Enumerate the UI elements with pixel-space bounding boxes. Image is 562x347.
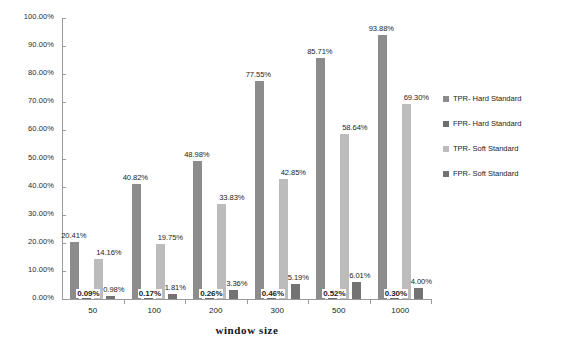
x-axis-separator-tick — [431, 299, 432, 304]
bar — [205, 298, 214, 299]
x-axis-separator-tick — [370, 299, 371, 304]
bar — [279, 179, 288, 299]
x-axis-category-label: 200 — [185, 306, 247, 315]
legend-swatch-icon — [443, 171, 449, 177]
bar-value-label: 69.30% — [404, 93, 429, 102]
bar-group: 77.55%0.46%42.85%5.19% — [255, 18, 300, 299]
bar-group: 85.71%0.52%58.64%6.01% — [316, 18, 361, 299]
bar-value-label: 0.46% — [261, 289, 285, 298]
y-axis-tick-label: 80.00% — [28, 68, 54, 77]
plot-area: 20.41%0.09%14.16%0.98%40.82%0.17%19.75%1… — [62, 18, 431, 299]
y-axis-tick-label: 0.00% — [32, 293, 54, 302]
bar — [390, 298, 399, 299]
y-axis-tick-label: 30.00% — [28, 209, 54, 218]
x-axis-separator-tick — [308, 299, 309, 304]
bar-value-label: 0.17% — [138, 289, 162, 298]
legend-item[interactable]: FPR- Hard Standard — [443, 111, 561, 136]
bar — [352, 282, 361, 299]
bar — [340, 134, 349, 299]
legend-label: TPR- Hard Standard — [453, 94, 521, 103]
bar-value-label: 19.75% — [158, 233, 183, 242]
bar-value-label: 4.00% — [411, 277, 432, 286]
bar-value-label: 0.98% — [103, 285, 124, 294]
y-axis-tick-label: 90.00% — [28, 40, 54, 49]
bar-value-label: 6.01% — [349, 271, 370, 280]
bar — [229, 290, 238, 299]
x-axis-title: window size — [62, 324, 432, 336]
x-axis-category-label: 50 — [62, 306, 124, 315]
x-axis-separator-tick — [124, 299, 125, 304]
legend-item[interactable]: FPR- Soft Standard — [443, 161, 561, 186]
bar-value-label: 48.98% — [184, 150, 209, 159]
bar-value-label: 0.09% — [76, 289, 100, 298]
bar-value-label: 85.71% — [307, 47, 332, 56]
legend-swatch-icon — [443, 96, 449, 102]
legend-item[interactable]: TPR- Hard Standard — [443, 86, 561, 111]
y-axis-tick-label: 10.00% — [28, 265, 54, 274]
y-axis-tick-label: 20.00% — [28, 237, 54, 246]
bar-value-label: 33.83% — [219, 193, 244, 202]
bar-value-label: 42.85% — [281, 168, 306, 177]
bar-chart: 0.00%10.00%20.00%30.00%40.00%50.00%60.00… — [0, 0, 562, 347]
legend-label: TPR- Soft Standard — [453, 144, 518, 153]
bar — [106, 296, 115, 299]
bar — [82, 298, 91, 299]
legend-swatch-icon — [443, 121, 449, 127]
y-axis-tick-label: 100.00% — [24, 12, 54, 21]
bar — [378, 35, 387, 299]
bar-value-label: 40.82% — [123, 173, 148, 182]
bar-value-label: 0.52% — [322, 289, 346, 298]
x-axis-category-label: 100 — [124, 306, 186, 315]
bar — [316, 58, 325, 299]
bar — [168, 294, 177, 299]
bar-group: 20.41%0.09%14.16%0.98% — [70, 18, 115, 299]
bar — [144, 298, 153, 299]
y-axis-tick-mark — [62, 299, 66, 300]
legend-item[interactable]: TPR- Soft Standard — [443, 136, 561, 161]
bar-value-label: 5.19% — [288, 273, 309, 282]
bar-value-label: 0.26% — [199, 289, 223, 298]
bar-value-label: 14.16% — [96, 248, 121, 257]
x-axis-category-label: 300 — [247, 306, 309, 315]
bar — [255, 81, 264, 299]
bar — [402, 104, 411, 299]
legend-swatch-icon — [443, 146, 449, 152]
x-axis-category-label: 1000 — [370, 306, 432, 315]
chart-legend: TPR- Hard StandardFPR- Hard StandardTPR-… — [443, 86, 561, 186]
bar-value-label: 58.64% — [342, 123, 367, 132]
x-axis-separator-tick — [247, 299, 248, 304]
y-axis-tick-label: 50.00% — [28, 153, 54, 162]
y-axis-tick-label: 60.00% — [28, 124, 54, 133]
bar-group: 93.88%0.30%69.30%4.00% — [378, 18, 423, 299]
legend-label: FPR- Soft Standard — [453, 169, 518, 178]
bar-value-label: 0.30% — [384, 289, 408, 298]
bar-value-label: 3.36% — [226, 279, 247, 288]
bar — [193, 161, 202, 299]
x-axis-separator-tick — [185, 299, 186, 304]
bar-value-label: 1.81% — [165, 283, 186, 292]
bar-value-label: 20.41% — [61, 231, 86, 240]
bar — [291, 284, 300, 299]
y-axis-tick-label: 40.00% — [28, 181, 54, 190]
bar-group: 40.82%0.17%19.75%1.81% — [132, 18, 177, 299]
bar-value-label: 77.55% — [246, 70, 271, 79]
x-axis-category-label: 500 — [308, 306, 370, 315]
bar — [217, 204, 226, 299]
bar — [132, 184, 141, 299]
y-axis-tick-label: 70.00% — [28, 96, 54, 105]
legend-label: FPR- Hard Standard — [453, 119, 521, 128]
bar-value-label: 93.88% — [369, 24, 394, 33]
bar — [414, 288, 423, 299]
bar-group: 48.98%0.26%33.83%3.36% — [193, 18, 238, 299]
